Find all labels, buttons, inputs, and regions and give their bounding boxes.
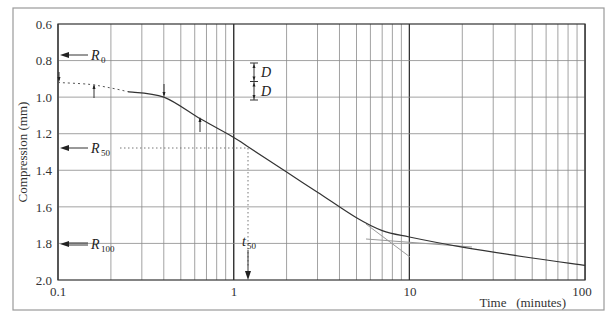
arrow-down-icon bbox=[245, 271, 251, 280]
d-label-top: D bbox=[260, 65, 271, 80]
x-tick-label: 100 bbox=[572, 284, 592, 299]
r50-marker: R 50 bbox=[60, 141, 111, 158]
svg-text:50: 50 bbox=[101, 148, 111, 158]
y-axis-ticks: 0.6 0.8 1.0 1.2 1.4 1.6 1.8 2.0 bbox=[36, 17, 53, 288]
arrow-left-icon bbox=[60, 241, 69, 247]
r50-label: R bbox=[90, 141, 100, 156]
consolidation-chart: 0.6 0.8 1.0 1.2 1.4 1.6 1.8 2.0 0.1 1 10… bbox=[0, 0, 613, 319]
y-tick-label: 1.8 bbox=[36, 236, 52, 251]
y-tick-label: 0.8 bbox=[36, 53, 52, 68]
y-tick-label: 0.6 bbox=[36, 17, 53, 32]
r0-label: R bbox=[90, 48, 100, 63]
d-label-bottom: D bbox=[260, 84, 271, 99]
svg-text:50: 50 bbox=[247, 241, 257, 251]
arrow-left-icon bbox=[60, 145, 69, 151]
extrapolated-curve bbox=[58, 83, 128, 92]
svg-text:0: 0 bbox=[101, 55, 106, 65]
y-tick-label: 1.6 bbox=[36, 200, 53, 215]
y-tick-label: 1.2 bbox=[36, 126, 52, 141]
r100-marker: R 100 bbox=[60, 237, 115, 254]
x-axis-title: Time (minutes) bbox=[479, 295, 566, 310]
d-dimension: D D bbox=[250, 63, 271, 100]
y-tick-label: 1.0 bbox=[36, 90, 52, 105]
r100-label: R bbox=[90, 237, 100, 252]
t50-marker: t 50 bbox=[242, 234, 257, 280]
x-tick-label: 10 bbox=[404, 284, 417, 299]
r0-marker: R 0 bbox=[60, 48, 106, 65]
grid bbox=[58, 24, 585, 280]
x-tick-label: 1 bbox=[231, 284, 238, 299]
curve-arrows bbox=[58, 72, 202, 132]
arrow-left-icon bbox=[60, 52, 69, 58]
plot-area-border bbox=[58, 24, 585, 280]
y-axis-title: Compression (mm) bbox=[15, 102, 30, 203]
y-tick-label: 1.4 bbox=[36, 163, 53, 178]
x-tick-label: 0.1 bbox=[50, 284, 66, 299]
svg-text:100: 100 bbox=[101, 244, 115, 254]
